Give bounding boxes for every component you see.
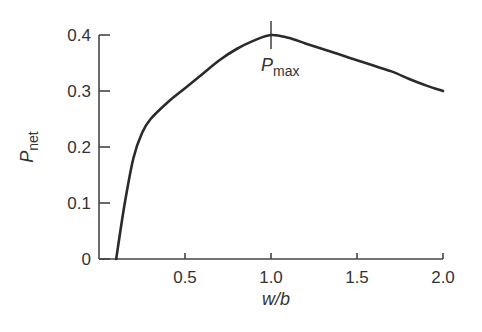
x-axis-ticks: 0.51.01.52.0 — [173, 253, 455, 287]
y-tick-label: 0.3 — [67, 82, 91, 101]
y-tick-label: 0.4 — [67, 26, 91, 45]
y-axis-ticks: 00.10.20.30.4 — [67, 26, 110, 269]
line-chart: 00.10.20.30.4 0.51.01.52.0 Pmax w/b Pnet — [0, 0, 482, 332]
x-tick-label: 2.0 — [431, 268, 455, 287]
pmax-label: Pmax — [261, 55, 299, 79]
y-axis-label: Pnet — [17, 131, 41, 163]
x-axis-label: w/b — [262, 289, 290, 309]
x-tick-label: 1.0 — [259, 268, 283, 287]
y-tick-label: 0.2 — [67, 138, 91, 157]
y-tick-label: 0.1 — [67, 194, 91, 213]
pmax-annotation: Pmax — [261, 21, 299, 79]
x-tick-label: 0.5 — [173, 268, 197, 287]
x-tick-label: 1.5 — [345, 268, 369, 287]
y-tick-label: 0 — [82, 250, 91, 269]
